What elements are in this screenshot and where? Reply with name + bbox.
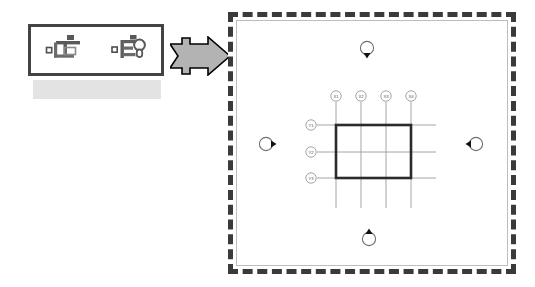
elevation-marker-south[interactable]	[362, 229, 375, 246]
x-gridlines	[336, 102, 411, 208]
elevation-marker-north[interactable]	[360, 41, 373, 58]
grid-bubble-x3: X3	[381, 91, 391, 101]
grid-tools-toolbar	[28, 24, 164, 76]
level-tool-button[interactable]	[106, 31, 152, 69]
grid-tool-button[interactable]	[41, 31, 87, 69]
grid-bubble-y2: Y2	[306, 147, 316, 157]
grid-bubble-x1-label: X1	[333, 94, 339, 99]
plan-outline-rectangle	[336, 125, 411, 178]
grid-bubble-x2-label: X2	[358, 94, 364, 99]
level-marker-icon	[109, 33, 149, 67]
grid-bubble-x1: X1	[331, 91, 341, 101]
grid-drawing: X1 X2 X3 X4 Y1 Y2 Y3	[228, 12, 516, 274]
grid-bubble-x4: X4	[406, 91, 416, 101]
grid-bubble-x2: X2	[356, 91, 366, 101]
grid-bubble-y3-label: Y3	[308, 176, 314, 181]
grid-bubble-x4-label: X4	[408, 94, 414, 99]
flow-arrow	[170, 36, 232, 76]
grid-bubble-y1: Y1	[306, 120, 316, 130]
toolbar-drop-shadow	[33, 80, 161, 99]
grid-bubble-y1-label: Y1	[308, 123, 314, 128]
grid-bubble-y3: Y3	[306, 173, 316, 183]
elevation-marker-west[interactable]	[259, 137, 276, 150]
elevation-marker-east[interactable]	[466, 137, 483, 150]
grid-bubble-y2-label: Y2	[308, 150, 314, 155]
grid-bubble-x3-label: X3	[383, 94, 389, 99]
grid-line-icon	[44, 33, 84, 67]
